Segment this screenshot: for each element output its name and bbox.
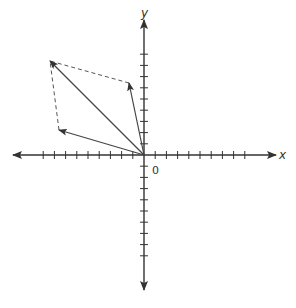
dashed-line-from-b xyxy=(50,61,59,130)
y-axis-label: y xyxy=(140,6,149,20)
x-axis-label: x xyxy=(278,148,287,162)
vectors xyxy=(50,61,144,155)
vector-diagram: x y 0 xyxy=(0,0,296,308)
parallelogram-dashed-lines xyxy=(50,61,129,130)
dashed-line-from-a xyxy=(50,61,129,83)
vector-a-arrow xyxy=(129,83,144,155)
origin-label: 0 xyxy=(152,164,159,177)
